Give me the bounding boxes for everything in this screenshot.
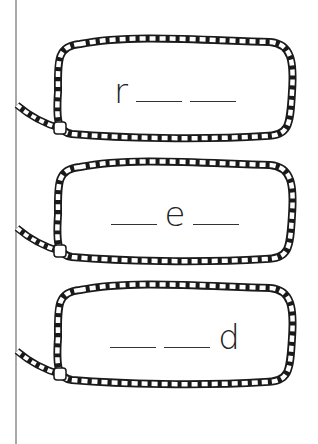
knot-icon bbox=[54, 122, 66, 134]
letter-blank[interactable] bbox=[193, 223, 239, 225]
lasso-frame-2: e bbox=[0, 155, 318, 265]
letter-blank[interactable] bbox=[164, 346, 210, 348]
given-letter: d bbox=[218, 320, 240, 354]
word-puzzle-2: e bbox=[68, 197, 282, 231]
lasso-frame-3: d bbox=[0, 278, 318, 388]
word-puzzle-3: d bbox=[68, 320, 282, 354]
letter-blank[interactable] bbox=[110, 346, 156, 348]
given-letter: r bbox=[114, 74, 128, 108]
word-puzzle-1: r bbox=[68, 74, 282, 108]
letter-blank[interactable] bbox=[136, 100, 182, 102]
letter-blank[interactable] bbox=[190, 100, 236, 102]
knot-icon bbox=[54, 245, 66, 257]
knot-icon bbox=[54, 368, 66, 380]
given-letter: e bbox=[165, 197, 186, 231]
letter-blank[interactable] bbox=[111, 223, 157, 225]
lasso-frame-1: r bbox=[0, 32, 318, 142]
